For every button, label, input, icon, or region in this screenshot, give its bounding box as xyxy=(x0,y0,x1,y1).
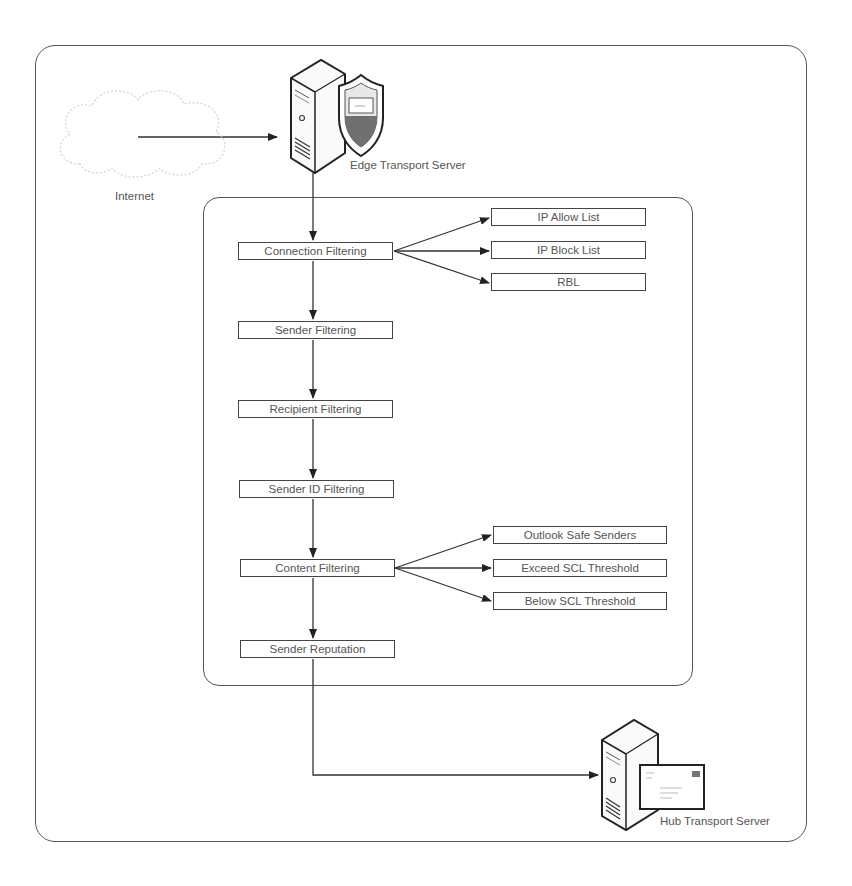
edge-server-label: Edge Transport Server xyxy=(350,159,466,171)
hub-server-label: Hub Transport Server xyxy=(660,815,770,827)
recipient-filtering-box: Recipient Filtering xyxy=(238,400,393,418)
ip-block-list-box: IP Block List xyxy=(491,241,646,259)
internet-label: Internet xyxy=(115,190,154,202)
internet-cloud-icon xyxy=(50,82,235,182)
sender-id-filtering-box: Sender ID Filtering xyxy=(239,480,394,498)
ip-allow-list-box: IP Allow List xyxy=(491,208,646,226)
content-filtering-box: Content Filtering xyxy=(240,559,395,577)
below-scl-threshold-box: Below SCL Threshold xyxy=(493,592,667,610)
exceed-scl-threshold-box: Exceed SCL Threshold xyxy=(493,559,667,577)
rbl-box: RBL xyxy=(491,273,646,291)
connection-filtering-box: Connection Filtering xyxy=(238,242,393,260)
envelope-icon xyxy=(640,765,704,809)
sender-reputation-box: Sender Reputation xyxy=(240,640,395,658)
outlook-safe-senders-box: Outlook Safe Senders xyxy=(493,526,667,544)
sender-filtering-box: Sender Filtering xyxy=(238,321,393,339)
